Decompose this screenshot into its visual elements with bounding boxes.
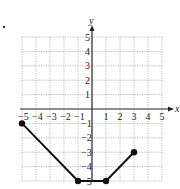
y-tick-label: −4 bbox=[81, 161, 92, 172]
x-tick-label: −4 bbox=[32, 111, 43, 122]
x-tick-label: 5 bbox=[160, 111, 165, 122]
x-tick-label: 4 bbox=[146, 111, 151, 122]
y-tick-label: 2 bbox=[85, 75, 90, 86]
data-point bbox=[131, 149, 137, 155]
y-axis-label: y bbox=[88, 15, 94, 26]
x-axis-label: x bbox=[174, 103, 180, 114]
x-tick-label: −3 bbox=[46, 111, 57, 122]
data-point bbox=[75, 178, 81, 184]
axes bbox=[20, 25, 174, 182]
y-tick-label: −3 bbox=[81, 147, 92, 158]
x-tick-label: 3 bbox=[132, 111, 137, 122]
y-tick-label: 3 bbox=[85, 60, 90, 71]
function-graph: −5−4−3−2−11234554321−1−2−3−4−5 x y bbox=[0, 0, 180, 189]
x-axis-arrow-icon bbox=[168, 107, 174, 112]
y-tick-label: 5 bbox=[85, 32, 90, 43]
x-tick-label: −5 bbox=[18, 111, 29, 122]
problem-marker bbox=[3, 26, 5, 28]
x-tick-label: 1 bbox=[104, 111, 109, 122]
y-tick-label: 1 bbox=[85, 89, 90, 100]
data-point bbox=[103, 178, 109, 184]
y-tick-label: −1 bbox=[81, 118, 92, 129]
y-tick-label: −2 bbox=[81, 132, 92, 143]
x-tick-label: 2 bbox=[118, 111, 123, 122]
data-point bbox=[19, 120, 25, 126]
x-tick-label: −2 bbox=[60, 111, 71, 122]
y-tick-label: 4 bbox=[85, 46, 90, 57]
